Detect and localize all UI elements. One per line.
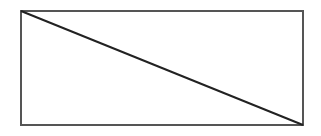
diagram-svg: [0, 0, 321, 136]
diagram-canvas: [0, 0, 321, 136]
